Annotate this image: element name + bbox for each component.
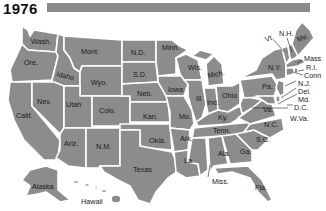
label-nm: N.M. xyxy=(96,142,111,151)
label-la: La. xyxy=(184,156,194,165)
state-conn[interactable] xyxy=(286,68,294,76)
label-kan: Kan. xyxy=(143,112,158,121)
label-nd: N.D. xyxy=(131,48,145,57)
label-mont: Mont. xyxy=(81,47,99,56)
label-minn: Minn. xyxy=(162,43,180,52)
label-iowa: Iowa xyxy=(168,85,183,94)
us-map: Wash. Ore. Calif. Idaho Nev. Mont. Wyo. … xyxy=(0,0,326,211)
label-ariz: Ariz. xyxy=(64,139,78,148)
label-ny: N.Y. xyxy=(268,63,281,72)
label-tenn: Tenn. xyxy=(213,126,231,135)
label-alaska: Alaska xyxy=(32,182,54,191)
label-dc: D.C. xyxy=(294,103,308,112)
label-mo: Mo. xyxy=(179,112,191,121)
label-wash: Wash. xyxy=(31,37,51,46)
label-va: Va. xyxy=(263,105,273,114)
label-colo: Colo. xyxy=(99,106,116,115)
label-okla: Okla. xyxy=(149,136,166,145)
label-ark: Ark. xyxy=(180,134,193,143)
label-ky: Ky. xyxy=(218,113,228,122)
label-sc: S.C. xyxy=(256,135,270,144)
label-vt: Vt. xyxy=(264,32,275,43)
label-nc: N.C. xyxy=(264,120,278,129)
label-ill: Ill. xyxy=(196,94,203,103)
label-sd: S.D. xyxy=(133,70,147,79)
label-utah: Utah xyxy=(66,100,81,109)
label-ind: Ind. xyxy=(207,98,219,107)
label-pa: Pa. xyxy=(262,82,273,91)
label-wis: Wis. xyxy=(188,63,202,72)
state-nj[interactable] xyxy=(276,80,284,96)
label-ore: Ore. xyxy=(24,58,38,67)
label-wva: W.Va. xyxy=(290,114,309,123)
state-ariz[interactable] xyxy=(56,128,86,168)
label-ga: Ga. xyxy=(240,147,252,156)
label-hawaii: Hawaii xyxy=(81,197,103,206)
label-fla: Fla. xyxy=(255,183,267,192)
label-texas: Texas xyxy=(133,165,152,174)
label-mass: Mass xyxy=(304,54,322,63)
label-nev: Nev. xyxy=(37,97,51,106)
state-del[interactable] xyxy=(276,96,280,102)
label-miss: Miss. xyxy=(212,177,229,186)
label-wyo: Wyo. xyxy=(91,78,107,87)
label-ohio: Ohio xyxy=(222,91,237,100)
label-neb: Neb. xyxy=(137,89,152,98)
label-ala: Ala. xyxy=(218,149,230,158)
label-calif: Calif. xyxy=(16,111,32,120)
label-nh: N.H. xyxy=(279,29,293,38)
